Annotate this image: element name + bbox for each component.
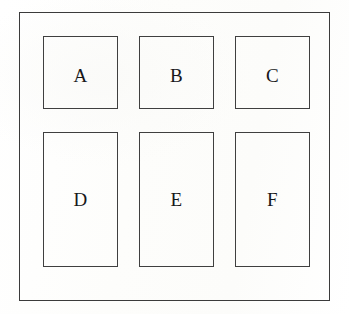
cell-a[interactable]: A	[43, 36, 118, 109]
cell-f-label: F	[236, 190, 309, 209]
cell-d-label: D	[44, 190, 117, 209]
cell-d[interactable]: D	[43, 132, 118, 267]
cell-c[interactable]: C	[235, 36, 310, 109]
cell-b[interactable]: B	[139, 36, 214, 109]
cell-a-label: A	[44, 66, 117, 85]
outer-frame: A B C D E F	[19, 12, 330, 301]
diagram-canvas: A B C D E F	[0, 0, 349, 314]
cell-e[interactable]: E	[139, 132, 214, 267]
cell-e-label: E	[140, 190, 213, 209]
cell-c-label: C	[236, 66, 309, 85]
cell-f[interactable]: F	[235, 132, 310, 267]
cell-b-label: B	[140, 66, 213, 85]
